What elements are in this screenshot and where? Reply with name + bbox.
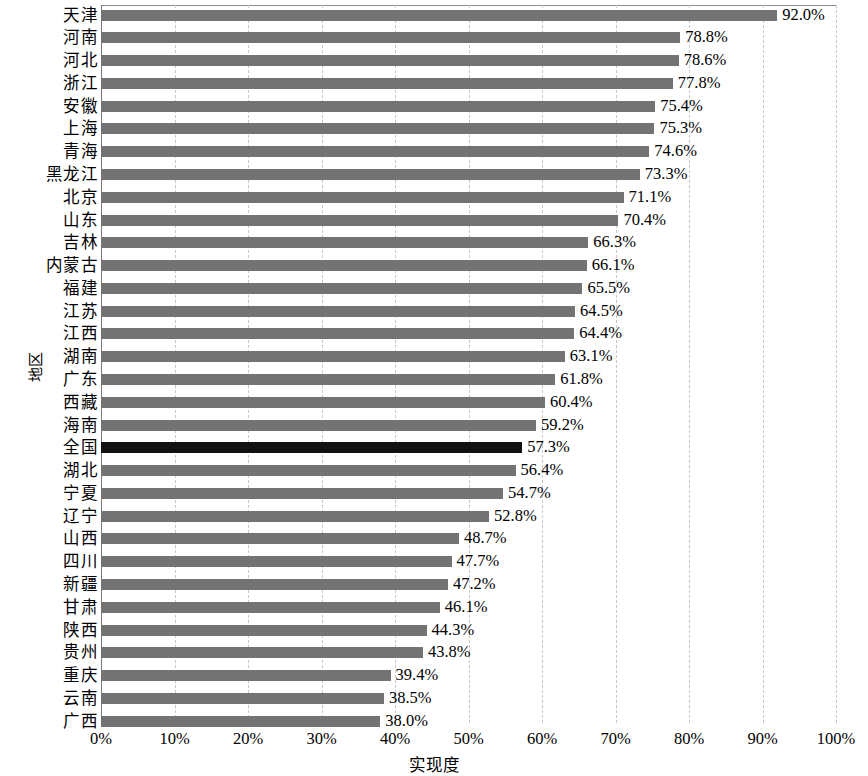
bar[interactable] bbox=[101, 351, 565, 362]
x-tick-label: 60% bbox=[502, 729, 582, 749]
gridline-20 bbox=[248, 5, 249, 723]
category-label: 湖北 bbox=[36, 462, 98, 479]
bar-value-label: 71.1% bbox=[629, 189, 672, 205]
bar-value-label: 61.8% bbox=[560, 371, 603, 387]
category-label: 新疆 bbox=[36, 576, 98, 593]
category-label: 海南 bbox=[36, 417, 98, 434]
bar[interactable] bbox=[101, 328, 574, 339]
category-label: 福建 bbox=[36, 280, 98, 297]
bar-value-label: 66.1% bbox=[592, 257, 635, 273]
category-label: 河北 bbox=[36, 52, 98, 69]
bar[interactable] bbox=[101, 374, 555, 385]
x-tick-label: 20% bbox=[208, 729, 288, 749]
bar[interactable] bbox=[101, 670, 391, 681]
category-label: 云南 bbox=[36, 690, 98, 707]
category-label: 浙江 bbox=[36, 75, 98, 92]
bar[interactable] bbox=[101, 488, 503, 499]
x-tick-label: 70% bbox=[576, 729, 656, 749]
bar-value-label: 60.4% bbox=[550, 394, 593, 410]
bar-value-label: 75.4% bbox=[660, 98, 703, 114]
bar-value-label: 46.1% bbox=[445, 599, 488, 615]
bar[interactable] bbox=[101, 215, 618, 226]
category-label: 青海 bbox=[36, 143, 98, 160]
category-label: 重庆 bbox=[36, 667, 98, 684]
bar[interactable] bbox=[101, 693, 384, 704]
bar[interactable] bbox=[101, 101, 655, 112]
bar-value-label: 48.7% bbox=[464, 530, 507, 546]
bar[interactable] bbox=[101, 533, 459, 544]
bar-value-label: 73.3% bbox=[645, 166, 688, 182]
bar[interactable] bbox=[101, 10, 777, 21]
bar-value-label: 64.5% bbox=[580, 303, 623, 319]
gridline-90 bbox=[763, 5, 764, 723]
category-label: 四川 bbox=[36, 553, 98, 570]
bar-value-label: 65.5% bbox=[587, 280, 630, 296]
category-label: 全国 bbox=[36, 439, 98, 456]
bar[interactable] bbox=[101, 283, 582, 294]
bar[interactable] bbox=[101, 146, 649, 157]
plot-area: 92.0%78.8%78.6%77.8%75.4%75.3%74.6%73.3%… bbox=[101, 5, 836, 723]
bar-value-label: 38.5% bbox=[389, 690, 432, 706]
bar[interactable] bbox=[101, 442, 522, 453]
category-label: 吉林 bbox=[36, 234, 98, 251]
bar-value-label: 77.8% bbox=[678, 75, 721, 91]
bar-chart: 地区 天津河南河北浙江安徽上海青海黑龙江北京山东吉林内蒙古福建江苏江西湖南广东西… bbox=[0, 0, 868, 776]
bar[interactable] bbox=[101, 192, 624, 203]
bar-value-label: 39.4% bbox=[396, 667, 439, 683]
bar-value-label: 43.8% bbox=[428, 644, 471, 660]
bar[interactable] bbox=[101, 78, 673, 89]
category-label: 甘肃 bbox=[36, 599, 98, 616]
bar[interactable] bbox=[101, 237, 588, 248]
gridline-40 bbox=[395, 5, 396, 723]
bar[interactable] bbox=[101, 32, 680, 43]
bar-value-label: 44.3% bbox=[432, 622, 475, 638]
category-label: 江西 bbox=[36, 325, 98, 342]
bar[interactable] bbox=[101, 260, 587, 271]
category-label: 内蒙古 bbox=[36, 257, 98, 274]
category-label: 陕西 bbox=[36, 622, 98, 639]
bar-value-label: 74.6% bbox=[654, 143, 697, 159]
category-label: 贵州 bbox=[36, 644, 98, 661]
bar-value-label: 75.3% bbox=[659, 120, 702, 136]
bar[interactable] bbox=[101, 647, 423, 658]
bar[interactable] bbox=[101, 579, 448, 590]
bar[interactable] bbox=[101, 716, 380, 727]
bar-value-label: 66.3% bbox=[593, 234, 636, 250]
bar[interactable] bbox=[101, 420, 536, 431]
bar[interactable] bbox=[101, 169, 640, 180]
bar[interactable] bbox=[101, 55, 679, 66]
x-tick-label: 0% bbox=[61, 729, 141, 749]
category-label: 宁夏 bbox=[36, 485, 98, 502]
category-label: 广西 bbox=[36, 713, 98, 730]
bar[interactable] bbox=[101, 511, 489, 522]
bar-value-label: 52.8% bbox=[494, 508, 537, 524]
category-label: 天津 bbox=[36, 7, 98, 24]
bar[interactable] bbox=[101, 306, 575, 317]
x-tick-label: 40% bbox=[355, 729, 435, 749]
category-label: 山西 bbox=[36, 530, 98, 547]
bar[interactable] bbox=[101, 556, 452, 567]
category-label: 辽宁 bbox=[36, 508, 98, 525]
bar-value-label: 38.0% bbox=[385, 713, 428, 729]
bar[interactable] bbox=[101, 465, 516, 476]
bar[interactable] bbox=[101, 625, 427, 636]
x-tick-label: 10% bbox=[135, 729, 215, 749]
bar-value-label: 63.1% bbox=[570, 348, 613, 364]
bar-value-label: 59.2% bbox=[541, 417, 584, 433]
category-label: 黑龙江 bbox=[36, 166, 98, 183]
category-label: 北京 bbox=[36, 189, 98, 206]
bar-value-label: 70.4% bbox=[623, 212, 666, 228]
gridline-60 bbox=[542, 5, 543, 723]
bar[interactable] bbox=[101, 397, 545, 408]
x-tick-label: 30% bbox=[282, 729, 362, 749]
category-label: 湖南 bbox=[36, 348, 98, 365]
gridline-100 bbox=[836, 5, 837, 723]
bar[interactable] bbox=[101, 602, 440, 613]
bar-value-label: 57.3% bbox=[527, 439, 570, 455]
bar[interactable] bbox=[101, 123, 654, 134]
x-tick-label: 80% bbox=[649, 729, 729, 749]
gridline-10 bbox=[175, 5, 176, 723]
bar-value-label: 47.2% bbox=[453, 576, 496, 592]
category-label: 江苏 bbox=[36, 303, 98, 320]
bar-value-label: 47.7% bbox=[457, 553, 500, 569]
